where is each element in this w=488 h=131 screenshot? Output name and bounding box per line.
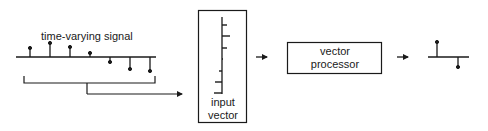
signal-sample-stem xyxy=(128,57,131,71)
output-sample-stem xyxy=(435,40,438,57)
output-signal xyxy=(428,40,469,68)
vector-processor-label-line2: processor xyxy=(288,58,382,71)
signal-sample-stem xyxy=(28,46,31,57)
signal-sample-stem xyxy=(148,57,151,73)
signal-sample-stem xyxy=(88,51,91,57)
signal-sample-stem xyxy=(48,41,51,57)
time-varying-signal xyxy=(16,41,156,72)
vector-processor-label-line1: vector xyxy=(288,45,382,58)
signal-sample-stem xyxy=(108,57,111,64)
input-vector-label: input vector xyxy=(199,96,247,122)
signal-processing-diagram: time-varying signal input vector vector … xyxy=(0,0,488,131)
output-sample-stem xyxy=(456,57,459,69)
output-stems xyxy=(435,40,459,68)
sample-bracket xyxy=(24,76,155,94)
signal-sample-stem xyxy=(68,45,71,57)
input-vector-label-line1: input xyxy=(199,96,247,109)
input-vector-label-line2: vector xyxy=(199,109,247,122)
vector-processor-label: vector processor xyxy=(288,45,382,71)
time-varying-signal-label: time-varying signal xyxy=(41,30,133,43)
